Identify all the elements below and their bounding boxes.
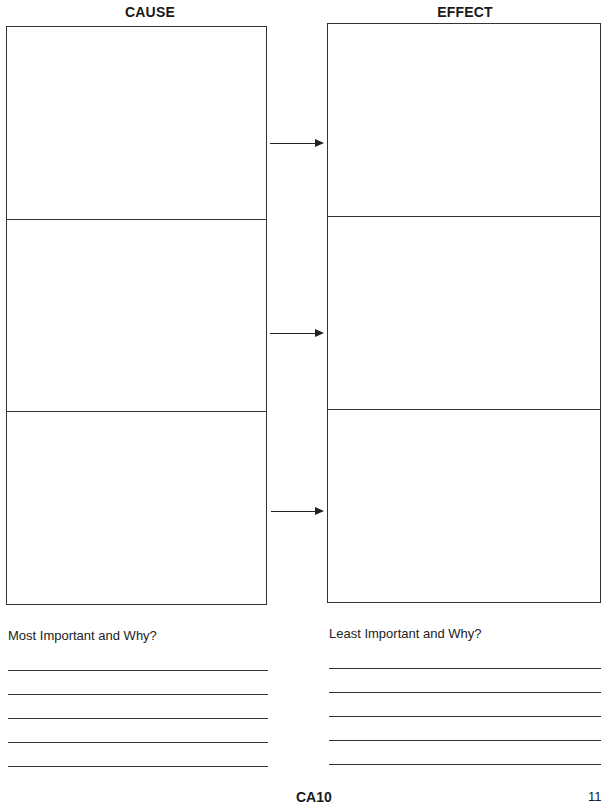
answer-line[interactable] bbox=[329, 692, 601, 693]
answer-line[interactable] bbox=[8, 694, 268, 695]
answer-line[interactable] bbox=[329, 716, 601, 717]
answer-line[interactable] bbox=[329, 764, 601, 765]
arrow-right-icon bbox=[271, 511, 322, 512]
least-important-lines bbox=[329, 0, 601, 799]
page-number: 11 bbox=[588, 789, 602, 804]
arrow-right-icon bbox=[270, 333, 322, 334]
answer-line[interactable] bbox=[8, 742, 268, 743]
most-important-lines bbox=[8, 0, 268, 799]
answer-line[interactable] bbox=[329, 668, 601, 669]
answer-line[interactable] bbox=[8, 670, 268, 671]
answer-line[interactable] bbox=[329, 740, 601, 741]
answer-line[interactable] bbox=[8, 718, 268, 719]
answer-line[interactable] bbox=[8, 766, 268, 767]
footer-code: CA10 bbox=[296, 789, 332, 805]
arrow-right-icon bbox=[270, 143, 322, 144]
